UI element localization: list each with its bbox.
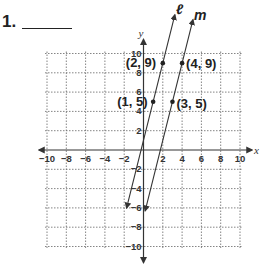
x-tick-label: 10 [235,153,246,164]
x-tick-label: 8 [218,153,223,164]
y-tick-label: −6 [131,202,142,213]
x-tick-label: 4 [179,153,185,164]
data-point [161,61,166,66]
data-point [151,99,156,104]
line-l [127,15,175,208]
point-label: (1, 5) [117,94,147,109]
y-tick-label: −8 [131,221,142,232]
y-tick-label: 2 [136,125,141,136]
x-tick-label: −8 [61,153,72,164]
line-m-label: m [194,7,206,23]
point-label: (2, 9) [126,55,156,70]
x-tick-label: −2 [119,153,130,164]
y-axis-label: y [138,27,144,39]
line-l-label: ℓ [176,1,184,17]
x-tick-label: −4 [99,153,111,164]
x-tick-label: −6 [80,153,91,164]
x-tick-label: 2 [160,153,165,164]
data-point [180,61,185,66]
data-point [170,99,175,104]
point-label: (3, 5) [176,96,206,111]
line-m [145,20,193,211]
y-tick-label: −10 [125,241,141,252]
x-tick-label: −10 [39,153,55,164]
x-tick-label: 6 [199,153,204,164]
x-axis-label: x [253,144,259,156]
coordinate-plane: xy −10−8−6−4−2246810108642−2−4−6−8−10 ℓm… [0,0,271,277]
point-label: (4, 9) [186,56,216,71]
